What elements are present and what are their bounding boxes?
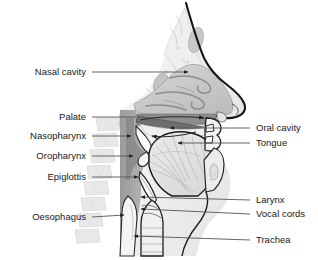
label-tongue: Tongue <box>256 138 287 148</box>
label-nasopharynx: Nasopharynx <box>30 131 86 141</box>
label-oesophagus: Oesophagus <box>32 212 86 222</box>
label-trachea: Trachea <box>256 235 291 245</box>
label-vocal-cords: Vocal cords <box>256 209 305 219</box>
label-palate: Palate <box>59 112 86 122</box>
label-nasal-cavity: Nasal cavity <box>35 67 86 77</box>
larynx-trachea-region <box>141 200 163 256</box>
label-oropharynx: Oropharynx <box>36 151 86 161</box>
label-oral-cavity: Oral cavity <box>256 123 301 133</box>
label-larynx: Larynx <box>256 195 285 205</box>
oesophagus-region <box>120 196 137 256</box>
label-epiglottis: Epiglottis <box>47 172 86 182</box>
respiratory-tract-figure: Nasal cavityPalateNasopharynxOropharynxE… <box>0 0 318 260</box>
